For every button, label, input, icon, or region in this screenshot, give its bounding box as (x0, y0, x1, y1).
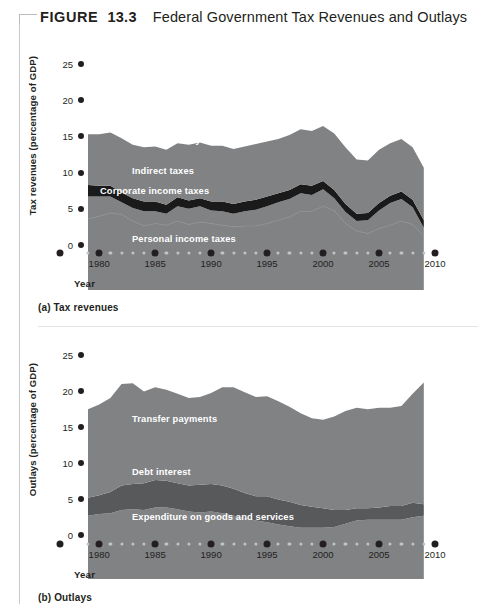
x-tick-dot-minor (120, 251, 123, 254)
x-tick-dot-minor (198, 542, 201, 545)
y-tick-label: 10 (62, 167, 73, 178)
x-tick-dot-major (152, 250, 159, 257)
x-tick-dot-minor (131, 542, 134, 545)
x-tick-dot-minor (232, 542, 235, 545)
x-tick-label: 2000 (312, 258, 333, 269)
x-tick-dot-minor (86, 251, 89, 254)
x-tick-label: 2000 (312, 549, 333, 560)
panel-a-caption: (a) Tax revenues (38, 302, 119, 313)
x-tick-label: 1985 (145, 549, 166, 560)
x-tick-dot-minor (254, 251, 257, 254)
x-tick-dot-minor (355, 251, 358, 254)
x-tick-dot-minor (288, 542, 291, 545)
panel-separator (38, 326, 478, 327)
x-tick-dot-minor (198, 251, 201, 254)
figure-label-word: FIGURE (40, 9, 98, 25)
x-tick-dot-minor (243, 251, 246, 254)
y-tick: 20 (40, 385, 84, 397)
x-tick-dot-minor (176, 542, 179, 545)
x-tick-dot-minor (232, 251, 235, 254)
x-tick-dot-minor (277, 251, 280, 254)
y-tick-dot (78, 206, 84, 212)
x-tick-dot-minor (310, 251, 313, 254)
panel-a-x-axis-title: Year (74, 278, 95, 289)
figure-container: FIGURE 13.3 Federal Government Tax Reven… (0, 0, 497, 611)
panel-b-caption: (b) Outlays (38, 592, 92, 603)
x-tick-dot-major (264, 250, 271, 257)
x-tick-dot-major (96, 250, 103, 257)
x-tick-dot-minor (389, 251, 392, 254)
x-axis-origin-dot (57, 250, 64, 257)
x-tick-dot-minor (344, 251, 347, 254)
y-tick-label: 25 (62, 59, 73, 70)
x-tick-dot-minor (86, 542, 89, 545)
x-tick-dot-minor (333, 251, 336, 254)
panel-b-y-axis-title: Outlays (percentage of GDP) (27, 330, 38, 530)
x-tick-dot-minor (254, 542, 257, 545)
panel-b-x-tick-dots (56, 539, 459, 549)
x-tick-dot-minor (243, 542, 246, 545)
x-tick-dot-minor (422, 542, 425, 545)
x-tick-dot-minor (310, 542, 313, 545)
x-tick-dot-minor (366, 542, 369, 545)
x-tick-dot-minor (389, 542, 392, 545)
y-tick: 25 (40, 58, 84, 70)
x-tick-dot-major (96, 541, 103, 548)
y-tick: 10 (40, 167, 84, 179)
x-tick-dot-minor (400, 251, 403, 254)
y-tick-dot (78, 460, 84, 466)
y-tick-dot (78, 352, 84, 358)
x-tick-dot-major (264, 541, 271, 548)
y-tick-dot (78, 424, 84, 430)
y-tick-label: 25 (62, 350, 73, 361)
y-tick: 15 (40, 421, 84, 433)
y-tick-label: 15 (62, 422, 73, 433)
x-tick-dot-minor (176, 251, 179, 254)
x-tick-label: 1995 (257, 549, 278, 560)
x-tick-dot-minor (366, 251, 369, 254)
x-tick-dot-major (432, 541, 439, 548)
x-tick-label: 2005 (368, 258, 389, 269)
x-tick-dot-minor (109, 542, 112, 545)
x-tick-dot-minor (142, 542, 145, 545)
y-tick-dot (78, 170, 84, 176)
y-tick-dot (78, 388, 84, 394)
x-tick-label: 1990 (201, 549, 222, 560)
x-tick-dot-minor (355, 542, 358, 545)
x-tick-dot-major (208, 541, 215, 548)
panel-a-x-tick-dots (56, 248, 459, 258)
x-tick-dot-minor (165, 251, 168, 254)
x-tick-label: 1980 (89, 258, 110, 269)
x-tick-dot-minor (344, 542, 347, 545)
x-tick-dot-minor (299, 542, 302, 545)
x-tick-label: 2010 (424, 549, 445, 560)
corner-bracket-decoration (19, 14, 37, 25)
figure-title: Federal Government Tax Revenues and Outl… (153, 9, 467, 25)
x-tick-dot-minor (277, 542, 280, 545)
x-tick-dot-minor (288, 251, 291, 254)
y-tick: 25 (40, 349, 84, 361)
x-tick-label: 2010 (424, 258, 445, 269)
panel-a-y-axis-title: Tax revenues (percentage of GDP) (27, 36, 38, 236)
x-tick-dot-minor (187, 251, 190, 254)
x-tick-label: 1995 (257, 258, 278, 269)
x-tick-dot-major (320, 250, 327, 257)
x-tick-dot-minor (131, 251, 134, 254)
x-tick-dot-major (208, 250, 215, 257)
x-axis-origin-dot (57, 541, 64, 548)
x-tick-dot-minor (221, 251, 224, 254)
y-tick-label: 5 (68, 203, 73, 214)
y-tick-label: 20 (62, 95, 73, 106)
x-tick-dot-major (320, 541, 327, 548)
x-tick-dot-minor (333, 542, 336, 545)
x-tick-dot-minor (142, 251, 145, 254)
x-tick-dot-minor (187, 542, 190, 545)
figure-header: FIGURE 13.3 Federal Government Tax Reven… (40, 9, 467, 33)
panel-tax-revenues: Tax revenues (percentage of GDP) 2520151… (0, 40, 497, 322)
x-tick-label: 2005 (368, 549, 389, 560)
y-tick: 10 (40, 457, 84, 469)
x-tick-dot-major (432, 250, 439, 257)
x-tick-dot-minor (299, 251, 302, 254)
x-tick-label: 1985 (145, 258, 166, 269)
panel-outlays: Outlays (percentage of GDP) 2520151050 T… (0, 334, 497, 611)
